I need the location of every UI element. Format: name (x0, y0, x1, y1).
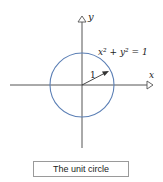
caption-text: The unit circle (53, 164, 109, 174)
x-axis-arrowhead-icon (147, 81, 153, 89)
caption-box: The unit circle (33, 161, 129, 177)
y-axis-arrowhead-icon (78, 16, 86, 22)
radius-label: 1 (90, 70, 96, 80)
y-axis-label: y (87, 11, 94, 22)
unit-circle-diagram: y x x² + y² = 1 1 (0, 0, 163, 182)
x-axis-label: x (149, 70, 154, 80)
equation-label: x² + y² = 1 (98, 47, 148, 57)
radius-arrowhead-icon (102, 71, 109, 76)
